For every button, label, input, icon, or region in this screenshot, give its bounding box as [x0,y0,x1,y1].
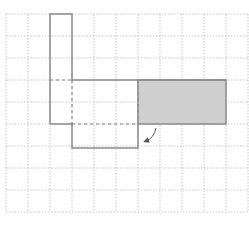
grid-diagram [0,0,249,225]
diagram-canvas [0,0,249,225]
shaded-rectangle [138,80,226,124]
curved-arrow-icon [146,128,156,141]
